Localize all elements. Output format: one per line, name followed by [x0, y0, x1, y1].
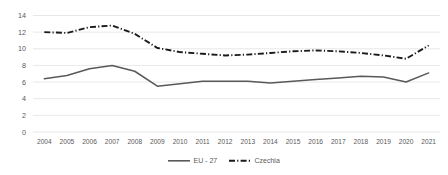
chart-plot-area: 02468101214 2004200520062007200820092010…	[0, 0, 448, 175]
x-tick-label-2015: 2015	[286, 138, 301, 145]
line-chart: 02468101214 2004200520062007200820092010…	[0, 0, 448, 175]
x-tick-label-2004: 2004	[37, 138, 52, 145]
y-tick-label: 0	[22, 128, 26, 137]
legend-item-eu-27-label: EU - 27	[194, 157, 218, 164]
x-tick-label-2007: 2007	[105, 138, 120, 145]
y-axis-tick-labels: 02468101214	[18, 11, 26, 137]
x-tick-label-2012: 2012	[218, 138, 233, 145]
data-series	[44, 25, 428, 86]
x-tick-label-2010: 2010	[173, 138, 188, 145]
x-tick-label-2018: 2018	[354, 138, 369, 145]
series-line-eu-27	[44, 65, 428, 86]
y-tick-label: 10	[18, 44, 26, 53]
chart-legend: EU - 27Czechia	[168, 157, 280, 164]
x-tick-label-2008: 2008	[127, 138, 142, 145]
y-tick-label: 4	[22, 94, 26, 103]
x-tick-label-2019: 2019	[376, 138, 391, 145]
x-tick-label-2005: 2005	[60, 138, 75, 145]
x-tick-label-2013: 2013	[240, 138, 255, 145]
x-tick-label-2016: 2016	[308, 138, 323, 145]
x-tick-label-2021: 2021	[421, 138, 436, 145]
y-tick-label: 6	[22, 78, 26, 87]
x-tick-label-2017: 2017	[331, 138, 346, 145]
x-tick-label-2011: 2011	[195, 138, 210, 145]
x-tick-label-2020: 2020	[399, 138, 414, 145]
x-tick-label-2006: 2006	[82, 138, 97, 145]
gridlines	[33, 16, 440, 133]
y-tick-label: 2	[22, 111, 26, 120]
legend-item-czechia-label: Czechia	[255, 157, 280, 164]
y-tick-label: 12	[18, 28, 26, 37]
y-tick-label: 8	[22, 61, 26, 70]
x-tick-label-2009: 2009	[150, 138, 165, 145]
series-line-czechia	[44, 25, 428, 58]
x-tick-label-2014: 2014	[263, 138, 278, 145]
y-tick-label: 14	[18, 11, 26, 20]
x-axis-tick-labels: 2004200520062007200820092010201120122013…	[37, 138, 436, 145]
